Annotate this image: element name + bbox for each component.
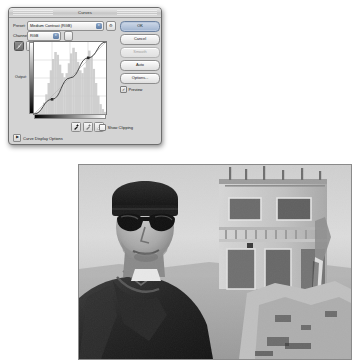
show-clipping-row[interactable]: Show Clipping <box>99 124 133 131</box>
channel-row: Channel: RGB ▾ <box>13 31 73 41</box>
preview-checkbox[interactable]: ✓ <box>120 86 127 93</box>
curves-graph[interactable]: Output: Input: <box>29 41 105 117</box>
channel-auto-button[interactable] <box>64 31 73 41</box>
channel-dropdown[interactable]: RGB ▾ <box>27 31 61 41</box>
eyedropper-gray-icon[interactable] <box>83 122 93 132</box>
curve-plot[interactable] <box>34 42 106 114</box>
curve-control-point[interactable] <box>51 98 54 101</box>
preset-dropdown[interactable]: Medium Contrast (RGB) ▾ <box>27 21 104 31</box>
curve-control-point[interactable] <box>87 57 90 60</box>
output-label: Output: <box>15 75 27 79</box>
photo-figure <box>78 164 352 360</box>
show-clipping-label: Show Clipping <box>108 125 134 130</box>
preset-value: Medium Contrast (RGB) <box>30 23 72 28</box>
dialog-button-column: OK Cancel Smooth Auto Options... ✓ Previ… <box>120 21 158 93</box>
chevron-down-icon: ▾ <box>53 33 59 39</box>
photo-image <box>79 165 351 359</box>
dialog-titlebar[interactable]: Curves <box>9 8 161 18</box>
disclosure-triangle-icon[interactable]: ▶ <box>13 134 21 142</box>
chevron-down-icon: ▾ <box>96 23 102 29</box>
curve-display-options-row[interactable]: ▶ Curve Display Options <box>13 134 63 142</box>
curve-grid[interactable] <box>33 41 107 115</box>
preset-row: Preset: Medium Contrast (RGB) ▾ ⚙ <box>13 21 116 31</box>
gear-icon[interactable]: ⚙ <box>106 21 116 31</box>
show-clipping-checkbox[interactable] <box>99 124 106 131</box>
preview-row[interactable]: ✓ Preview <box>120 86 158 93</box>
preview-label: Preview <box>129 87 143 92</box>
channel-value: RGB <box>30 33 38 38</box>
channel-label: Channel: <box>13 33 25 38</box>
smooth-button: Smooth <box>120 47 160 58</box>
dialog-title: Curves <box>9 10 161 15</box>
curves-dialog: Curves Preset: Medium Contrast (RGB) ▾ ⚙… <box>8 7 162 145</box>
curve-points-icon[interactable] <box>14 41 24 51</box>
dialog-body: Preset: Medium Contrast (RGB) ▾ ⚙ Channe… <box>9 18 161 145</box>
cancel-button[interactable]: Cancel <box>120 34 160 45</box>
preset-label: Preset: <box>13 23 25 28</box>
options-button[interactable]: Options... <box>120 73 160 84</box>
eyedropper-black-icon[interactable] <box>71 122 81 132</box>
ok-button[interactable]: OK <box>120 21 160 32</box>
curve-display-options-label: Curve Display Options <box>23 136 63 141</box>
auto-button[interactable]: Auto <box>120 60 160 71</box>
input-gradient-ramp <box>34 114 106 119</box>
